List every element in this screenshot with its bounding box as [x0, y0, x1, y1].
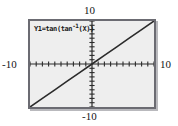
calculator-screenshot: 10 -10 10 -10 Y1=tan(tan-1(X))	[0, 0, 178, 126]
graph-plot-area	[30, 21, 154, 107]
function-expression-label: Y1=tan(tan-1(X))	[34, 25, 94, 33]
axis-label-x-max: 10	[160, 58, 171, 70]
axis-label-y-max: 10	[84, 4, 95, 16]
axis-label-y-min: -10	[82, 110, 97, 122]
function-prefix: Y1=tan(tan	[34, 25, 72, 33]
axis-label-x-min: -10	[2, 58, 17, 70]
function-suffix: (X))	[79, 25, 94, 33]
graph-viewport[interactable]: Y1=tan(tan-1(X))	[28, 19, 156, 109]
